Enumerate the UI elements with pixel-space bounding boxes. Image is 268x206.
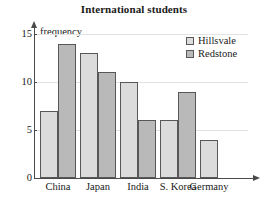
bar-china-hillsvale [40, 111, 58, 178]
legend-swatch-icon-redstone [186, 50, 194, 58]
bar-s-korea-hillsvale [160, 120, 178, 178]
bar-india-hillsvale [120, 82, 138, 178]
y-tick-label-10: 10 [6, 77, 32, 87]
bar-chart: International students frequency 051015 … [0, 0, 268, 206]
x-axis-line [34, 178, 254, 179]
bar-germany-hillsvale [200, 140, 218, 178]
x-axis-arrow-icon [253, 175, 260, 181]
y-tick-mark-5 [34, 130, 37, 131]
legend-label: Hillsvale [198, 35, 236, 46]
y-axis-ticks: 051015 [0, 0, 32, 206]
legend-label: Redstone [198, 48, 237, 59]
y-tick-label-5: 5 [6, 125, 32, 135]
bar-japan-hillsvale [80, 53, 98, 178]
bar-s-korea-redstone [178, 92, 196, 178]
bar-japan-redstone [98, 72, 116, 178]
y-tick-mark-10 [34, 82, 37, 83]
chart-legend: HillsvaleRedstone [186, 34, 237, 60]
bar-india-redstone [138, 120, 156, 178]
bar-china-redstone [58, 44, 76, 178]
chart-title: International students [0, 3, 268, 15]
y-tick-label-15: 15 [6, 29, 32, 39]
legend-swatch-icon-hillsvale [186, 37, 194, 45]
y-tick-mark-15 [34, 34, 37, 35]
x-tick-label-germany: Germany [169, 181, 249, 192]
legend-item-hillsvale[interactable]: Hillsvale [186, 34, 237, 47]
legend-item-redstone[interactable]: Redstone [186, 47, 237, 60]
